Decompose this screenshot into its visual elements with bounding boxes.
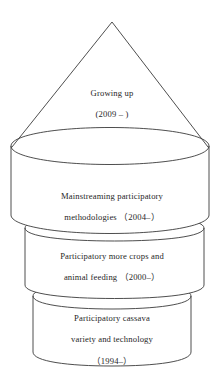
stacked-cylinder-pyramid-graphic [0,0,224,380]
diagram-canvas: Growing up (2009 – ) Mainstreaming parti… [0,0,224,380]
cylinder-1-shape [11,128,209,234]
